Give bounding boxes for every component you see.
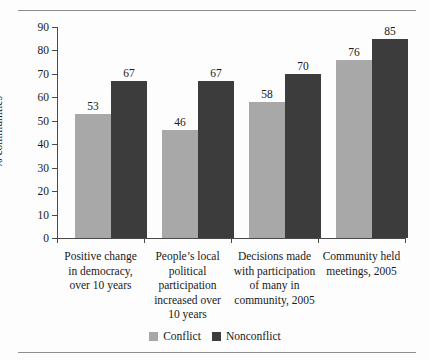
y-axis-tick-mark — [52, 50, 57, 51]
chart-legend: ConflictNonconflict — [0, 330, 430, 342]
x-axis-tick-mark — [405, 238, 406, 243]
plot-area: 9080706050403020100 5367466758707685 — [57, 27, 405, 238]
x-axis-category-label: Community heldmeetings, 2005 — [318, 249, 405, 278]
bar-conflict: 46 — [162, 130, 198, 238]
bar-conflict: 53 — [75, 114, 111, 238]
bar-value-label: 58 — [261, 88, 273, 100]
y-axis-tick-label: 30 — [38, 162, 50, 174]
x-axis-tick-mark — [57, 238, 58, 243]
bar-value-label: 85 — [384, 25, 396, 37]
y-axis-tick-label: 70 — [38, 68, 50, 80]
bar-value-label: 46 — [174, 116, 186, 128]
bar-conflict: 76 — [336, 60, 372, 238]
y-axis-tick-label: 10 — [38, 209, 50, 221]
bar-nonconflict: 67 — [198, 81, 234, 238]
x-axis-category-label: Positive changein democracy,over 10 year… — [57, 249, 144, 293]
legend-item: Nonconflict — [212, 330, 281, 342]
y-axis-tick-mark — [52, 74, 57, 75]
bar-value-label: 76 — [348, 46, 360, 58]
y-axis-tick-label: 60 — [38, 91, 50, 103]
bar-group: 7685 — [336, 27, 408, 238]
bar-nonconflict: 67 — [111, 81, 147, 238]
bar-group: 4667 — [162, 27, 234, 238]
y-axis-tick-label: 20 — [38, 185, 50, 197]
bar-value-label: 53 — [87, 100, 99, 112]
legend-label: Nonconflict — [226, 330, 281, 342]
x-axis-category-label: People’s localpoliticalparticipationincr… — [144, 249, 231, 322]
y-axis-tick-mark — [52, 215, 57, 216]
x-axis-tick-mark — [318, 238, 319, 243]
bar-value-label: 70 — [297, 60, 309, 72]
y-axis-tick-mark — [52, 121, 57, 122]
y-axis-tick-label: 0 — [43, 232, 49, 244]
bar-value-label: 67 — [210, 67, 222, 79]
x-axis-tick-mark — [144, 238, 145, 243]
bar-group: 5870 — [249, 27, 321, 238]
y-axis-tick-mark — [52, 97, 57, 98]
bottom-divider-rule — [18, 352, 416, 353]
bar-nonconflict: 85 — [372, 39, 408, 238]
legend-swatch-icon — [149, 332, 158, 341]
y-axis-tick-label: 80 — [38, 44, 50, 56]
bar-nonconflict: 70 — [285, 74, 321, 238]
y-axis-title: % communities — [0, 96, 4, 168]
y-axis-tick-label: 40 — [38, 138, 50, 150]
y-axis-tick-label: 90 — [38, 21, 50, 33]
top-divider-rule — [18, 10, 416, 11]
bar-group: 5367 — [75, 27, 147, 238]
y-axis-tick-mark — [52, 168, 57, 169]
x-axis-category-label: Decisions madewith participationof many … — [231, 249, 318, 307]
chart-figure: % communities 9080706050403020100 536746… — [0, 0, 430, 360]
x-axis-tick-mark — [231, 238, 232, 243]
legend-swatch-icon — [212, 332, 221, 341]
y-axis-tick-mark — [52, 144, 57, 145]
y-axis-tick-label: 50 — [38, 115, 50, 127]
legend-label: Conflict — [163, 330, 201, 342]
y-axis-tick-mark — [52, 27, 57, 28]
y-axis-tick-mark — [52, 191, 57, 192]
bar-value-label: 67 — [123, 67, 135, 79]
bar-conflict: 58 — [249, 102, 285, 238]
legend-item: Conflict — [149, 330, 201, 342]
